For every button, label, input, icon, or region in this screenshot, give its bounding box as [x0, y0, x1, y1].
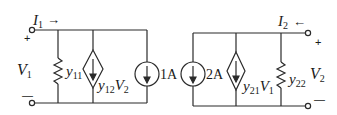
port2-plus-sign: +: [315, 37, 321, 48]
resistor-y11: [54, 30, 62, 103]
y11-label: y11: [66, 64, 82, 81]
y21v1-label: y21V1: [243, 79, 274, 96]
port1-minus-sign: —: [22, 90, 33, 101]
y22-label: y22: [289, 72, 306, 89]
port2-current-label: I2: [278, 14, 288, 31]
port1-current-arrow-icon: →: [47, 13, 60, 26]
port2-plus-terminal: [305, 30, 310, 35]
port1-voltage-label: V1: [17, 62, 32, 80]
port2-minus-sign: —: [314, 94, 325, 105]
y12v2-label: y12V2: [98, 78, 129, 95]
port1-plus-sign: +: [24, 33, 30, 44]
port2-minus-terminal: [305, 103, 310, 108]
port1-minus-terminal: [29, 100, 34, 105]
port1-current-label: I1: [33, 13, 43, 30]
current-source-2a: [181, 33, 205, 106]
current-source-1a: [135, 30, 159, 103]
source-2a-label: 2A: [206, 68, 223, 82]
left-network: [29, 27, 159, 105]
source-1a-label: 1A: [160, 68, 177, 82]
port2-voltage-label: V2: [310, 66, 325, 84]
port2-current-arrow-icon: ←: [293, 15, 306, 28]
